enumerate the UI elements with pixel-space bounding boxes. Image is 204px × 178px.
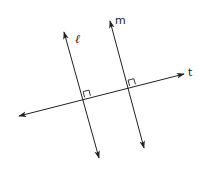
label-m: m — [115, 15, 126, 26]
right-angle-marker-m — [128, 79, 135, 86]
line-t — [19, 74, 184, 116]
label-l: ℓ — [75, 33, 80, 45]
diagram-canvas: ℓ m t — [0, 0, 204, 178]
diagram-svg — [0, 0, 204, 178]
line-l — [64, 32, 99, 158]
label-t: t — [188, 67, 192, 78]
right-angle-marker-l — [83, 90, 90, 97]
line-m — [110, 21, 144, 148]
